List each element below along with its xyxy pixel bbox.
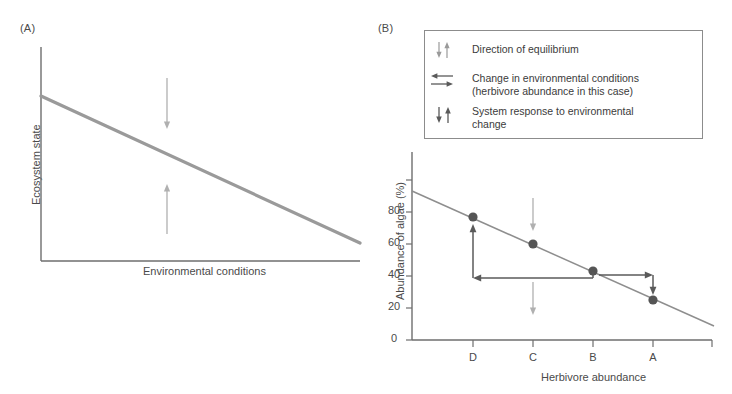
panel-b-change-right-arrow [599,272,653,279]
panel-b-response-up-arrow-at-D [470,224,477,278]
panel-b-response-down-arrow-at-A [650,275,657,295]
legend-item-change-label: Change in environmental conditions [472,72,639,85]
up-down-arrow-pair-icon [436,42,449,58]
panel-b-y-ticks [406,180,412,340]
legend-item-equilibrium-label: Direction of equilibrium [472,43,579,56]
legend-item-equilibrium: Direction of equilibrium [472,43,579,56]
panel-b-equilibrium-down-arrow-lower [530,282,536,315]
panel-b-equilibrium-down-arrow-upper [530,198,536,231]
legend-item-response-sublabel: change [472,118,634,131]
figure-root: (A) Ecosystem state Environmental condit… [0,0,732,394]
panel-b-point-C [528,239,537,248]
down-up-arrow-pair-icon [436,107,451,123]
legend-box: Direction of equilibrium Change in envir… [424,30,703,139]
panel-b-point-A [648,295,657,304]
panel-b-trend-line [412,191,714,326]
legend-item-response: System response to environmental change [472,105,634,130]
panel-b-change-left-arrow [473,272,593,281]
left-right-arrow-pair-icon [431,73,453,87]
panel-b-point-D [468,212,477,221]
panel-b-x-ticks [473,340,712,347]
legend-item-change-sublabel: (herbivore abundance in this case) [472,85,639,98]
legend-item-change: Change in environmental conditions (herb… [472,72,639,97]
legend-item-response-label: System response to environmental [472,105,634,118]
